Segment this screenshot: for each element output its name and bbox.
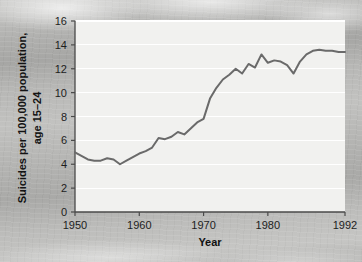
line-chart: 0246810121416 19501960197019801992 Year …	[0, 0, 362, 262]
y-tick-label: 12	[55, 63, 67, 75]
x-axis-title: Year	[198, 236, 222, 248]
x-tick-label: 1950	[63, 219, 87, 231]
chart-figure: 0246810121416 19501960197019801992 Year …	[0, 0, 362, 262]
y-tick-label: 4	[61, 158, 67, 170]
x-tick-label: 1992	[333, 219, 357, 231]
x-tick-label: 1960	[127, 219, 151, 231]
y-tick-label: 0	[61, 206, 67, 218]
y-tick-label: 2	[61, 182, 67, 194]
x-axis-tick-labels: 19501960197019801992	[63, 219, 357, 231]
y-tick-label: 6	[61, 134, 67, 146]
y-axis-title-line1: Suicides per 100,000 population,	[16, 33, 28, 204]
y-tick-label: 16	[55, 15, 67, 27]
y-axis-tick-labels: 0246810121416	[55, 15, 67, 218]
x-tick-label: 1970	[191, 219, 215, 231]
y-tick-label: 14	[55, 39, 67, 51]
y-tick-label: 10	[55, 87, 67, 99]
y-axis-title-line2: age 15–24	[31, 91, 43, 144]
y-tick-label: 8	[61, 111, 67, 123]
x-tick-label: 1980	[256, 219, 280, 231]
